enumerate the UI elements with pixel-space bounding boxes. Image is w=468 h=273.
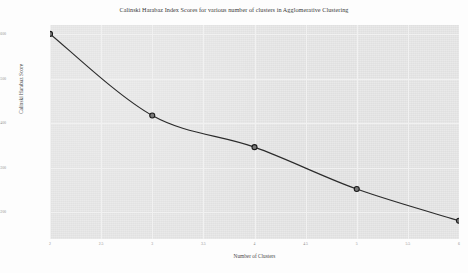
- data-point-marker: [150, 113, 155, 118]
- y-tick-label: 1600: [0, 32, 6, 36]
- x-tick-label: 4.5: [303, 242, 308, 246]
- y-tick-label: 1200: [0, 210, 6, 214]
- x-tick-label: 6: [458, 242, 460, 246]
- x-tick-label: 3: [151, 242, 153, 246]
- series-markers: [50, 31, 459, 223]
- x-axis-label: Number of Clusters: [50, 253, 459, 259]
- data-point-marker: [252, 145, 257, 150]
- y-tick-label: 1500: [0, 77, 6, 81]
- y-axis-label: Calinski Harabaz Score: [18, 24, 24, 154]
- y-tick-label: 1400: [0, 121, 6, 125]
- data-point-marker: [354, 187, 359, 192]
- data-point-marker: [457, 218, 460, 223]
- chart-figure: Calinski Harabaz Index Scores for variou…: [0, 0, 468, 273]
- x-tick-label: 4: [254, 242, 256, 246]
- plot-area: [50, 25, 459, 239]
- data-series-line: [50, 25, 459, 239]
- y-tick-label: 1300: [0, 166, 6, 170]
- x-tick-label: 2: [49, 242, 51, 246]
- data-point-marker: [50, 31, 53, 36]
- x-tick-label: 2.5: [99, 242, 104, 246]
- chart-title: Calinski Harabaz Index Scores for variou…: [0, 6, 468, 13]
- series-path: [50, 34, 459, 221]
- x-tick-label: 5.5: [406, 242, 411, 246]
- x-tick-label: 3.5: [201, 242, 206, 246]
- x-tick-label: 5: [356, 242, 358, 246]
